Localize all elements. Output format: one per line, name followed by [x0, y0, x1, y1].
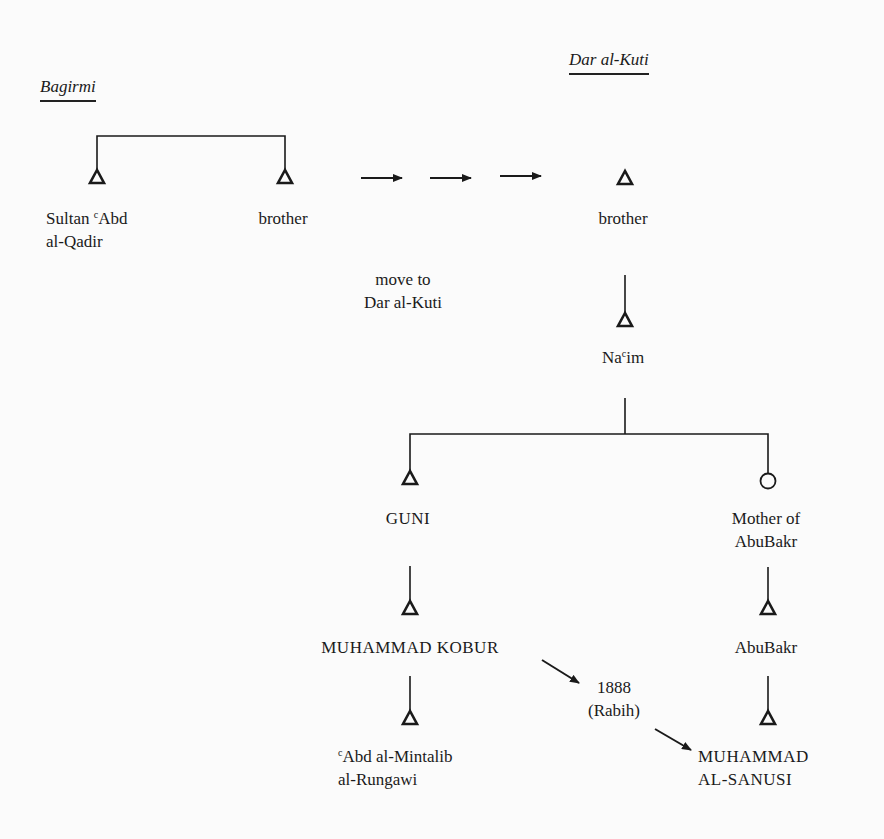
- triangle-icon-abubakr: [761, 601, 775, 614]
- node-label-muhammad-al-sanusi: MUHAMMAD AL-SANUSI: [698, 745, 809, 791]
- succession-arrow-2: [655, 729, 691, 750]
- circle-icon-mother: [761, 474, 776, 489]
- node-label-abd-al-mintalib: cAbd al-Mintalib al-Rungawi: [338, 745, 452, 791]
- succession-arrow-1: [542, 660, 579, 683]
- node-label-brother-darkuti: brother: [598, 207, 647, 230]
- triangle-icon-sanusi: [761, 711, 775, 724]
- triangle-icon-guni: [403, 471, 417, 484]
- node-label-guni: GUNI: [386, 507, 431, 530]
- triangle-icon-kobur: [403, 601, 417, 614]
- triangle-icon-sultan: [90, 170, 104, 183]
- annotation-event: 1888 (Rabih): [588, 676, 640, 722]
- node-label-nacim: Nacim: [602, 346, 644, 369]
- sibling-bracket-bagirmi: [97, 136, 285, 169]
- triangle-icon-mintalib: [403, 711, 417, 724]
- genealogy-diagram: Bagirmi Dar al-Kuti Sultan cAbd al-Qadir…: [0, 0, 884, 839]
- header-dar-al-kuti: Dar al-Kuti: [569, 48, 649, 75]
- diagram-lines: [0, 0, 884, 839]
- sibling-bracket-nacim-children: [410, 434, 768, 473]
- node-label-sultan: Sultan cAbd al-Qadir: [46, 207, 127, 253]
- triangle-icon-brother-bagirmi: [278, 170, 292, 183]
- node-label-brother-bagirmi: brother: [258, 207, 307, 230]
- triangle-icon-nacim: [618, 313, 632, 326]
- node-label-mother-abubakr: Mother of AbuBakr: [732, 507, 800, 553]
- annotation-move: move to Dar al-Kuti: [364, 268, 442, 314]
- node-label-abubakr: AbuBakr: [735, 636, 797, 659]
- triangle-icon-brother-darkuti: [618, 171, 632, 184]
- node-label-muhammad-kobur: MUHAMMAD KOBUR: [321, 636, 499, 659]
- header-bagirmi: Bagirmi: [40, 75, 96, 102]
